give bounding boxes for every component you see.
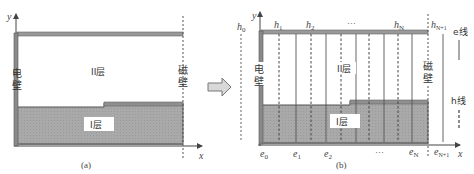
- svg-text:e2: e2: [324, 148, 332, 161]
- layer-ii-label-b: II层: [337, 64, 351, 74]
- layer-i-step: [104, 102, 183, 106]
- layer-i-step-b: [350, 100, 428, 104]
- y-axis-label-b: y: [251, 10, 257, 21]
- electric-wall-label-b-2: 壁: [254, 75, 264, 87]
- layer-ii-label: II层: [91, 67, 105, 77]
- caption-b: (b): [336, 160, 347, 170]
- magnetic-wall-label-2: 壁: [178, 76, 188, 88]
- diagram-canvas: y x 电 壁 磁 壁 II层 I层 (a): [0, 0, 474, 174]
- svg-text:hN+1: hN+1: [431, 19, 447, 31]
- magnetic-wall-label-1: 磁: [178, 64, 188, 76]
- electric-wall-label-2: 壁: [12, 79, 22, 91]
- y-axis-label: y: [6, 11, 12, 22]
- magnetic-wall-label-b-1: 磁: [423, 60, 433, 72]
- layer-i-label: I层: [90, 120, 102, 130]
- svg-text:e0: e0: [260, 148, 268, 161]
- svg-text:···: ···: [347, 18, 356, 28]
- e-line-legend-label: e线: [453, 26, 468, 37]
- bottom-plate: [17, 143, 183, 145]
- e-labels: e0 e1 e2 ··· eN eN+1: [260, 146, 449, 161]
- x-axis-label: x: [198, 150, 204, 161]
- electric-wall-label-1: 电: [12, 67, 22, 79]
- right-arrow-icon: [208, 78, 231, 96]
- h-line-legend-label: h线: [451, 95, 466, 106]
- svg-text:h0: h0: [237, 21, 246, 34]
- panel-b: e线 h线 y x h0 h1 h2 ··· hN hN+1 e0 e1 e2 …: [237, 10, 468, 170]
- svg-text:eN: eN: [409, 146, 419, 159]
- top-plate: [17, 32, 183, 36]
- electric-wall-label-b-1: 电: [254, 63, 264, 75]
- x-axis-label-b: x: [457, 148, 463, 159]
- bottom-plate-b: [261, 142, 428, 144]
- layer-i-label-b: I层: [336, 117, 348, 127]
- caption-a: (a): [81, 160, 91, 170]
- magnetic-wall-label-b-2: 壁: [423, 72, 433, 84]
- svg-text:e1: e1: [293, 148, 301, 161]
- svg-text:eN+1: eN+1: [434, 146, 449, 158]
- panel-a: y x 电 壁 磁 壁 II层 I层 (a): [6, 11, 204, 170]
- electric-wall-b: [259, 31, 263, 144]
- svg-text:···: ···: [375, 147, 384, 157]
